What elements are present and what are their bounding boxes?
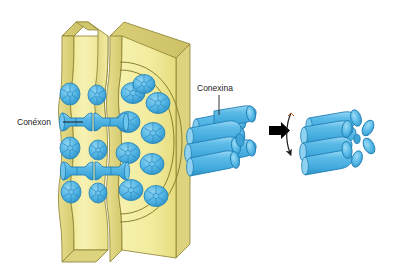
rosette-6 — [140, 154, 164, 175]
connexon-lower-right-cap — [124, 162, 129, 180]
connexon-closed-central-pore — [354, 134, 360, 143]
rosette-5 — [116, 143, 140, 164]
rosette-8 — [144, 186, 168, 207]
inner-connexon-b — [89, 140, 107, 160]
connexon-upper-right-cap — [123, 113, 128, 131]
gap-junction-illustration: Conéxon — [0, 0, 394, 279]
rosette-4 — [141, 123, 165, 144]
embedded-connexon-mid — [60, 137, 80, 159]
rosette-cap-3 — [361, 136, 378, 156]
connexon-lower-left-cap — [60, 162, 65, 180]
rotation-arrow — [287, 113, 294, 153]
rosette-2 — [146, 93, 170, 114]
inner-connexon-a — [88, 85, 106, 105]
connexon-open-panel: Conexina — [185, 83, 257, 176]
figure-canvas: Conéxon — [0, 0, 394, 279]
embedded-connexon-top — [60, 83, 80, 105]
rosette-cap-2 — [360, 118, 377, 138]
connexon-closed-panel — [300, 108, 378, 175]
rosette-9 — [133, 75, 155, 94]
rosette-7 — [119, 180, 143, 201]
connexina-label: Conexina — [197, 83, 233, 93]
gap-junction-membranes-panel: Conéxon — [17, 22, 190, 262]
inner-connexon-c — [89, 183, 107, 203]
connexon-label: Conéxon — [17, 117, 51, 127]
embedded-connexon-bottom — [61, 181, 81, 203]
embedded-connexons-left-edge — [60, 83, 81, 203]
